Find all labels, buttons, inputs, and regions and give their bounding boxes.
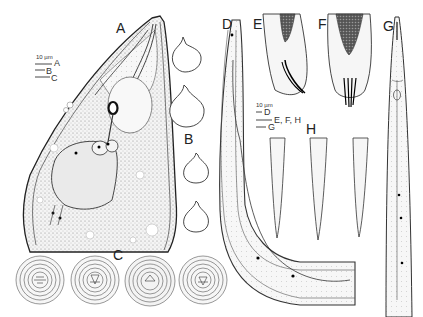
scale-bar-1-unit: 10 µm <box>36 54 53 60</box>
scale-bar-2-label-d: D <box>264 108 271 117</box>
figure-drawing <box>0 0 423 317</box>
scale-bar-1-label-a: A <box>54 59 60 68</box>
scale-bar-2-label-g: G <box>268 123 275 132</box>
panel-label-g: G <box>383 19 394 33</box>
scale-bar-1-label-c: C <box>51 74 58 83</box>
panel-e-drawing <box>263 14 307 95</box>
panel-label-c: C <box>113 248 123 262</box>
panel-g-drawing <box>386 17 412 317</box>
panel-label-a: A <box>116 21 125 35</box>
panel-label-d: D <box>222 17 232 31</box>
panel-f-drawing <box>328 14 372 107</box>
panel-label-e: E <box>253 17 262 31</box>
panel-label-f: F <box>318 17 327 31</box>
panel-label-b: B <box>184 132 193 146</box>
panel-label-h: H <box>306 122 316 136</box>
panel-h-drawing <box>270 138 368 240</box>
panel-a-drawing <box>23 16 176 252</box>
scale-bar-2-label-efh: E, F, H <box>274 116 301 125</box>
panel-c-drawing <box>16 256 227 306</box>
